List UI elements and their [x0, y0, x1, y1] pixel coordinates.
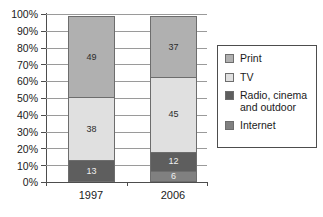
bar-column-1997[interactable]: 49 38 13 — [68, 17, 115, 182]
stacked-bar-chart: 100% 90% 80% 70% 60% 50% 40% 30% 20% 10%… — [0, 0, 323, 217]
x-tick-label-2006: 2006 — [143, 190, 203, 201]
bar-segment-radio-1997[interactable]: 13 — [68, 160, 115, 182]
y-tick-label: 80% — [0, 43, 38, 54]
y-tick-label: 100% — [0, 9, 38, 20]
y-tick-label: 30% — [0, 127, 38, 138]
bar-segment-print-1997[interactable]: 49 — [68, 16, 115, 98]
y-tick-label: 0% — [0, 177, 38, 188]
x-tick-mark — [207, 182, 208, 186]
bar-segment-value: 12 — [168, 157, 178, 166]
plot-area: 49 38 13 37 45 12 6 — [46, 14, 207, 182]
legend-swatch-internet — [225, 121, 234, 130]
legend: Print TV Radio, cinema and outdoor Inter… — [217, 45, 317, 148]
x-tick-label-1997: 1997 — [61, 190, 121, 201]
legend-swatch-print — [225, 54, 234, 63]
bar-segment-tv-2006[interactable]: 45 — [150, 77, 197, 153]
x-tick-mark — [127, 182, 128, 186]
bar-segment-radio-2006[interactable]: 12 — [150, 152, 197, 172]
legend-label: Internet — [240, 120, 276, 132]
legend-swatch-tv — [225, 73, 234, 82]
y-tick-label: 70% — [0, 60, 38, 71]
y-tick-label: 20% — [0, 144, 38, 155]
bar-segment-value: 13 — [86, 167, 96, 176]
x-tick-mark — [46, 182, 47, 186]
legend-label: TV — [240, 72, 253, 84]
bar-column-2006[interactable]: 37 45 12 6 — [150, 17, 197, 182]
legend-item-internet[interactable]: Internet — [225, 120, 316, 132]
gridline — [46, 14, 207, 15]
y-tick-label: 90% — [0, 26, 38, 37]
bar-segment-value: 49 — [86, 53, 96, 62]
y-tick-label: 10% — [0, 161, 38, 172]
bar-segment-value: 6 — [171, 172, 176, 181]
y-tick-label: 50% — [0, 93, 38, 104]
legend-label: Print — [240, 53, 262, 65]
legend-label: Radio, cinema and outdoor — [240, 90, 316, 113]
bar-segment-value: 37 — [168, 43, 178, 52]
legend-swatch-radio-cinema-outdoor — [225, 91, 234, 100]
legend-item-print[interactable]: Print — [225, 53, 316, 65]
bar-segment-value: 45 — [168, 110, 178, 119]
bar-segment-value: 38 — [86, 125, 96, 134]
legend-item-radio-cinema-outdoor[interactable]: Radio, cinema and outdoor — [225, 90, 316, 113]
y-tick-label: 60% — [0, 76, 38, 87]
legend-item-tv[interactable]: TV — [225, 72, 316, 84]
bar-segment-tv-1997[interactable]: 38 — [68, 97, 115, 161]
bar-segment-internet-2006[interactable]: 6 — [150, 171, 197, 182]
bar-segment-print-2006[interactable]: 37 — [150, 16, 197, 78]
y-tick-label: 40% — [0, 110, 38, 121]
